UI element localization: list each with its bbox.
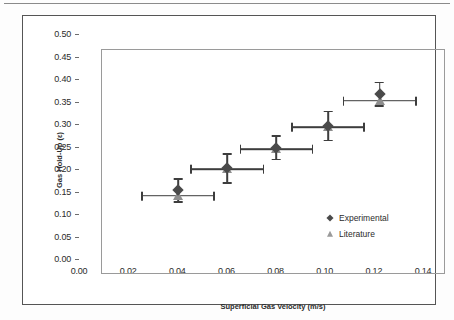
legend-diamond-marker-icon [324, 212, 336, 224]
y-axis-tick-label: 0.40 [54, 74, 71, 84]
y-axis-tick-label: 0.15 [54, 187, 71, 197]
y-axis-tick-mark [75, 57, 79, 58]
figure-border-box: Gas Hold-Up (ε) Superficial Gas Velocity… [22, 15, 436, 305]
y-axis-tick-mark [75, 147, 79, 148]
y-axis-tick-label: 0.20 [54, 164, 71, 174]
y-axis-tick-mark [75, 79, 79, 80]
y-axis-tick-mark [75, 124, 79, 125]
y-axis-tick-label: 0.50 [54, 29, 71, 39]
y-axis-tick-label: 0.30 [54, 119, 71, 129]
legend-item: Literature [324, 226, 389, 242]
y-axis-title: Gas Hold-Up (ε) [55, 132, 64, 188]
legend-item: Experimental [324, 210, 389, 226]
y-axis-tick-mark [75, 169, 79, 170]
y-axis-tick-mark [75, 102, 79, 103]
y-axis-tick-mark [75, 237, 79, 238]
legend-item-label: Literature [339, 229, 375, 239]
y-axis-tick-mark [75, 259, 79, 260]
y-axis-tick-label: 0.25 [54, 142, 71, 152]
y-axis-tick-label: 0.45 [54, 52, 71, 62]
page-top-rule [4, 3, 450, 4]
x-axis-title: Superficial Gas Velocity (m/s) [101, 302, 445, 311]
y-axis-tick-mark [75, 34, 79, 35]
chart-legend: ExperimentalLiterature [324, 210, 389, 242]
figure-page: Gas Hold-Up (ε) Superficial Gas Velocity… [0, 0, 454, 320]
y-axis-tick-label: 0.10 [54, 209, 71, 219]
y-axis-tick-mark [75, 192, 79, 193]
legend-triangle-marker-icon [324, 228, 336, 240]
legend-item-label: Experimental [339, 213, 389, 223]
y-axis-tick-label: 0.05 [54, 232, 71, 242]
y-axis-tick-label: 0.35 [54, 97, 71, 107]
y-axis-tick-mark [75, 214, 79, 215]
x-axis-tick-label: 0.00 [71, 266, 88, 276]
plot-area: ExperimentalLiterature [101, 49, 445, 274]
y-axis-tick-label: 0.00 [54, 254, 71, 264]
